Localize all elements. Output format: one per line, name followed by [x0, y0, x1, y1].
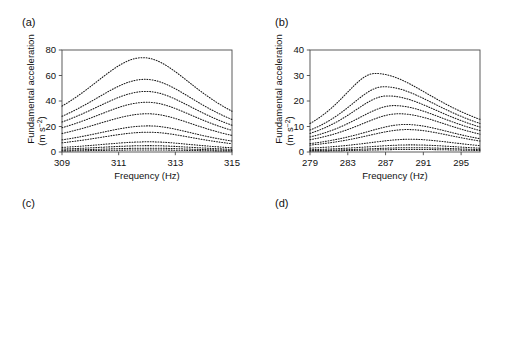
svg-text:40: 40: [45, 95, 56, 106]
panel-b-label: (b): [275, 16, 288, 28]
panel-a-label: (a): [22, 16, 35, 28]
panel-b: (b) 279283287291295010203040Frequency (H…: [253, 0, 505, 175]
panel-c: (c) 0.00010.0010.010.1110100Fundamental …: [0, 175, 253, 350]
svg-text:283: 283: [340, 157, 356, 168]
svg-text:Fundamental acceleration: Fundamental acceleration: [25, 34, 36, 143]
panel-b-plot: 279283287291295010203040Frequency (Hz)Fu…: [253, 0, 505, 175]
svg-text:0: 0: [51, 146, 56, 157]
svg-text:309: 309: [54, 157, 70, 168]
panel-d-label: (d): [275, 197, 288, 209]
svg-text:Fundamental acceleration: Fundamental acceleration: [273, 34, 284, 143]
panel-d: (d) 0.00010.0010.010.1110100Fundamental …: [253, 175, 505, 350]
panel-d-plot: 0.00010.0010.010.1110100Fundamental acce…: [253, 175, 505, 350]
figure-root: (a) 309311313315020406080Frequency (Hz)F…: [0, 0, 505, 350]
svg-text:295: 295: [453, 157, 469, 168]
panel-a-plot: 309311313315020406080Frequency (Hz)Funda…: [0, 0, 253, 175]
svg-text:30: 30: [293, 70, 304, 81]
svg-text:20: 20: [293, 95, 304, 106]
panel-a: (a) 309311313315020406080Frequency (Hz)F…: [0, 0, 253, 175]
svg-text:80: 80: [45, 44, 56, 55]
svg-text:0: 0: [299, 146, 304, 157]
svg-text:279: 279: [302, 157, 318, 168]
svg-text:291: 291: [415, 157, 431, 168]
panel-c-plot: 0.00010.0010.010.1110100Fundamental acce…: [0, 175, 253, 350]
svg-text:60: 60: [45, 70, 56, 81]
svg-text:40: 40: [293, 44, 304, 55]
svg-text:10: 10: [293, 121, 304, 132]
svg-text:313: 313: [167, 157, 183, 168]
svg-text:315: 315: [224, 157, 240, 168]
svg-text:311: 311: [111, 157, 126, 168]
svg-text:20: 20: [45, 121, 56, 132]
panel-c-label: (c): [22, 197, 35, 209]
svg-text:287: 287: [378, 157, 394, 168]
